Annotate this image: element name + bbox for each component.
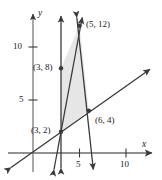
graph-figure: y x 10 5 5 10 (5, 12) (3, 8) (6, 4) (3, … [0, 0, 162, 180]
point-label-6-4: (6, 4) [95, 116, 115, 125]
point-3-2 [59, 130, 63, 134]
x-axis-label: x [142, 140, 146, 150]
graph-canvas [0, 0, 162, 180]
point-label-5-12: (5, 12) [86, 20, 110, 29]
y-axis-label: y [38, 9, 42, 19]
y-tick-label-5: 5 [19, 95, 24, 104]
point-label-3-8: (3, 8) [33, 63, 53, 72]
point-label-3-2: (3, 2) [31, 126, 51, 135]
x-tick-label-10: 10 [120, 160, 129, 169]
y-tick-label-10: 10 [13, 42, 22, 51]
point-6-4 [87, 108, 91, 112]
x-tick-label-5: 5 [76, 160, 81, 169]
point-5-12 [77, 24, 81, 28]
point-3-8 [59, 66, 63, 70]
